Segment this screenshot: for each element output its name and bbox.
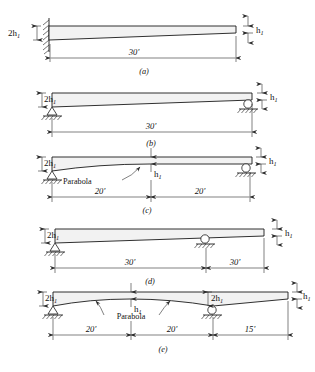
- span-label-c-20a: 20': [95, 186, 106, 196]
- caption-d: (d): [145, 277, 155, 286]
- subfigure-a: 2h1 h1 30' (a): [8, 16, 264, 76]
- depth-marker-right-e: [292, 283, 302, 308]
- depth-marker-right-c: [256, 148, 266, 173]
- beam-body-e: [53, 292, 288, 306]
- beam-body-c: [52, 157, 252, 171]
- caption-c: (c): [142, 206, 151, 215]
- beam-diagram-figure: 2h1 h1 30' (a): [0, 0, 315, 372]
- span-label-b-30: 30': [145, 121, 157, 131]
- span-label-a-30: 30': [128, 47, 140, 57]
- roller-support-b: [238, 100, 259, 113]
- parabola-leader-e-left: [96, 301, 104, 315]
- caption-b: (b): [146, 139, 156, 148]
- depth-label-right-a: h1: [256, 25, 264, 36]
- span-label-d-30a: 30': [124, 257, 136, 267]
- depth-marker-right-b: [257, 84, 267, 109]
- depth-label-right-e: h1: [303, 291, 311, 302]
- caption-e: (e): [158, 345, 167, 354]
- depth-marker-right-a: [243, 16, 253, 43]
- depth-label-right-c: h1: [269, 156, 277, 167]
- parabola-label-c: Parabola: [63, 177, 92, 186]
- beam-figure-canvas: 2h1 h1 30' (a): [0, 0, 315, 372]
- parabola-label-e: Parabola: [117, 312, 146, 321]
- depth-label-mid-c: h1: [154, 169, 162, 180]
- span-dimensions-d: [55, 238, 264, 273]
- span-label-d-30b: 30': [229, 257, 241, 267]
- subfigure-e: 2h1 h1 2h1 h1 Parabola: [39, 283, 311, 354]
- fixed-support-wall-a: [43, 18, 49, 54]
- parabola-leader-e-right: [159, 301, 170, 315]
- subfigure-c: 2h1 h1 h1 Parabola 20': [38, 148, 277, 215]
- depth-label-left-a: 2h1: [8, 28, 20, 39]
- span-label-e-20b: 20': [167, 324, 178, 334]
- span-label-c-20b: 20': [195, 186, 206, 196]
- subfigure-d: 2h1 h1 30' 30' (d): [41, 220, 293, 286]
- roller-support-e: [202, 306, 223, 319]
- span-dimension-a: [50, 36, 236, 62]
- caption-a: (a): [139, 67, 149, 76]
- beam-body-b: [52, 93, 252, 107]
- span-label-e-15: 15': [245, 324, 256, 334]
- beam-body-d: [55, 229, 264, 243]
- parabola-leader-c: [122, 167, 140, 180]
- depth-label-right-d: h1: [285, 228, 293, 239]
- depth-label-right-b: h1: [270, 92, 278, 103]
- depth-marker-left-a: [33, 26, 41, 40]
- span-label-e-20a: 20': [86, 324, 97, 334]
- depth-marker-right-d: [272, 220, 282, 245]
- roller-support-c: [236, 164, 257, 177]
- subfigure-b: 2h1 h1 30' (b): [38, 84, 278, 148]
- beam-body-a: [49, 26, 236, 40]
- span-dimensions-e: [53, 301, 288, 340]
